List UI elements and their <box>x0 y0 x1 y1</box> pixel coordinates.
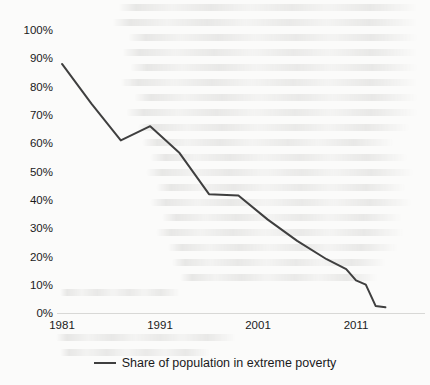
line-chart: 100% 90% 80% 70% 60% 50% 40% 30% 20% 10%… <box>0 0 430 385</box>
series-line-extreme-poverty <box>62 64 385 307</box>
series-plot <box>0 0 430 385</box>
legend-line-swatch <box>94 362 116 364</box>
legend-entry-label: Share of population in extreme poverty <box>122 357 337 370</box>
chart-legend: Share of population in extreme poverty <box>0 357 430 370</box>
